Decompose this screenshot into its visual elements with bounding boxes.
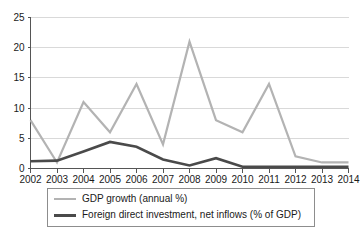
legend-item-fdi: Foreign direct investment, net inflows (… xyxy=(54,207,308,223)
legend-label-gdp-growth: GDP growth (annual %) xyxy=(82,193,187,205)
y-tick-label: 0 xyxy=(19,163,25,174)
series-line-gdp-growth xyxy=(31,42,349,163)
x-tick-label: 2007 xyxy=(152,174,175,185)
y-tick-label: 10 xyxy=(13,103,25,114)
x-tick-label: 2005 xyxy=(99,174,122,185)
x-tick-label: 2014 xyxy=(337,174,360,185)
y-tick-label: 15 xyxy=(13,72,25,83)
series-line-fdi xyxy=(31,142,349,167)
data-series xyxy=(31,42,349,167)
x-tick-label: 2010 xyxy=(231,174,254,185)
x-tick-label: 2003 xyxy=(46,174,69,185)
y-tick-label: 25 xyxy=(13,12,25,23)
y-axis-tick-labels: 0510152025 xyxy=(13,12,25,174)
x-axis-tick-marks xyxy=(31,169,349,173)
line-chart-figure: 0510152025 20022003200420052006200720082… xyxy=(0,0,363,232)
chart-legend: GDP growth (annual %) Foreign direct inv… xyxy=(47,188,315,227)
legend-swatch-gdp-growth xyxy=(54,198,76,200)
x-tick-label: 2002 xyxy=(19,174,42,185)
x-tick-label: 2009 xyxy=(205,174,228,185)
x-tick-label: 2013 xyxy=(311,174,334,185)
x-tick-label: 2011 xyxy=(258,174,280,185)
legend-swatch-fdi xyxy=(54,214,76,217)
legend-item-gdp-growth: GDP growth (annual %) xyxy=(54,191,308,207)
y-tick-label: 5 xyxy=(19,133,25,144)
x-tick-label: 2004 xyxy=(72,174,95,185)
x-tick-label: 2006 xyxy=(125,174,148,185)
legend-label-fdi: Foreign direct investment, net inflows (… xyxy=(82,209,301,221)
y-tick-label: 20 xyxy=(13,42,25,53)
x-axis-tick-labels: 2002200320042005200620072008200920102011… xyxy=(19,174,360,185)
x-tick-label: 2012 xyxy=(284,174,307,185)
x-tick-label: 2008 xyxy=(178,174,201,185)
